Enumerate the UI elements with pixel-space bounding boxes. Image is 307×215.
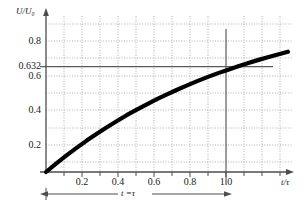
y-axis-label: U/U₀ xyxy=(16,7,35,16)
x-tick-label-0-2: 0.2 xyxy=(68,177,96,187)
tau-annotation-symbol: τ xyxy=(132,188,135,198)
x-tick-label-1-0: 1.0 xyxy=(212,177,240,187)
y-tick-label-0-8: 0.8 xyxy=(10,36,41,46)
y-tick-label-0-2: 0.2 xyxy=(10,140,41,150)
y-tick-label-0-4: 0.4 xyxy=(10,105,41,115)
y-tick-label-0-6: 0.6 xyxy=(10,71,41,81)
tau-annotation: t =τ xyxy=(121,189,135,198)
x-tick-label-0-6: 0.6 xyxy=(140,177,168,187)
x-tick-label-0-4: 0.4 xyxy=(104,177,132,187)
x-tick-label-0-8: 0.8 xyxy=(176,177,204,187)
x-axis-label: t/τ xyxy=(281,178,289,187)
